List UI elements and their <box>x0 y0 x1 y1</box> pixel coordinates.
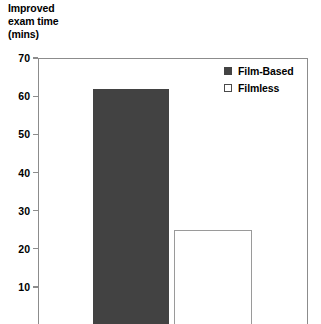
filled-square-icon <box>224 67 232 75</box>
bars-layer <box>0 0 321 324</box>
bar-film-based <box>93 89 169 324</box>
legend-item-film-based: Film-Based <box>224 62 294 79</box>
bar-filmless <box>174 230 252 324</box>
open-square-icon <box>224 84 232 92</box>
legend-item-label: Filmless <box>238 82 279 94</box>
bar-chart: Improved exam time (mins) 70605040302010… <box>0 0 321 324</box>
chart-legend: Film-BasedFilmless <box>224 62 294 96</box>
legend-item-label: Film-Based <box>238 65 294 77</box>
legend-item-filmless: Filmless <box>224 79 294 96</box>
